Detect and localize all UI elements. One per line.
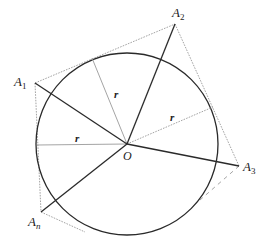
label-r-left: r xyxy=(75,132,80,144)
spoke-o-a2 xyxy=(127,24,175,144)
label-a3: A3 xyxy=(242,159,256,176)
edge-a2-a3 xyxy=(175,24,239,166)
label-r-right: r xyxy=(170,111,175,123)
edge-an-partial xyxy=(41,212,85,232)
radius-top xyxy=(92,58,127,144)
edge-a1-a2 xyxy=(35,24,175,83)
spoke-o-an xyxy=(41,144,127,212)
radius-left xyxy=(37,144,127,145)
polygon-edges xyxy=(35,24,239,232)
spoke-o-a3 xyxy=(127,144,239,166)
label-a2: A2 xyxy=(171,5,184,22)
edge-a3-an xyxy=(200,166,239,200)
inscribed-circle-diagram: A1 A2 A3 An O r r r xyxy=(0,0,271,245)
label-an: An xyxy=(27,214,41,231)
label-r-top: r xyxy=(114,88,119,100)
label-o: O xyxy=(123,149,132,163)
label-a1: A1 xyxy=(13,74,26,91)
